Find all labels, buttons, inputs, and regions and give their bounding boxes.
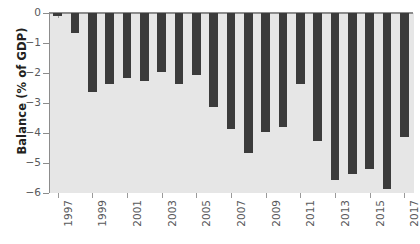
x-tick-label: 2003 bbox=[166, 200, 178, 227]
bar-2015 bbox=[365, 13, 374, 169]
y-tick-label: −1 bbox=[0, 36, 41, 48]
bar-2011 bbox=[296, 13, 305, 84]
y-tick bbox=[43, 73, 49, 74]
bar-2017 bbox=[400, 13, 409, 137]
y-tick bbox=[43, 43, 49, 44]
bar-2001 bbox=[123, 13, 132, 78]
y-tick-label: −6 bbox=[0, 186, 41, 198]
bar-2000 bbox=[105, 13, 114, 84]
x-tick-label: 2015 bbox=[374, 200, 386, 227]
bar-2010 bbox=[279, 13, 288, 127]
x-tick bbox=[335, 193, 336, 198]
bar-2014 bbox=[348, 13, 357, 174]
y-tick-label: −2 bbox=[0, 66, 41, 78]
x-tick-label: 2005 bbox=[200, 200, 212, 227]
bar-2003 bbox=[157, 13, 166, 72]
bar-2013 bbox=[331, 13, 340, 180]
y-tick-label: 0 bbox=[0, 6, 41, 18]
y-axis-title: Balance (% of GDP) bbox=[15, 6, 29, 176]
bar-2008 bbox=[244, 13, 253, 153]
bar-2005 bbox=[192, 13, 201, 75]
bar-2002 bbox=[140, 13, 149, 81]
x-tick bbox=[370, 193, 371, 198]
bar-1998 bbox=[71, 13, 80, 33]
bar-1997 bbox=[53, 13, 62, 16]
x-tick bbox=[404, 193, 405, 198]
y-tick bbox=[43, 13, 49, 14]
x-tick bbox=[58, 193, 59, 198]
x-tick-label: 1997 bbox=[62, 200, 74, 227]
y-tick bbox=[43, 193, 49, 194]
x-tick-label: 2013 bbox=[339, 200, 351, 227]
bar-2016 bbox=[383, 13, 392, 189]
x-tick-label: 2007 bbox=[235, 200, 247, 227]
y-tick-label: −5 bbox=[0, 156, 41, 168]
x-tick bbox=[162, 193, 163, 198]
bar-1999 bbox=[88, 13, 97, 92]
x-tick bbox=[231, 193, 232, 198]
x-tick bbox=[92, 193, 93, 198]
y-tick-label: −3 bbox=[0, 96, 41, 108]
bar-2007 bbox=[227, 13, 236, 129]
y-tick bbox=[43, 163, 49, 164]
bar-2012 bbox=[313, 13, 322, 141]
bar-2004 bbox=[175, 13, 184, 84]
x-tick-label: 2011 bbox=[304, 200, 316, 227]
x-tick bbox=[196, 193, 197, 198]
bar-2009 bbox=[261, 13, 270, 132]
x-tick-label: 2009 bbox=[270, 200, 282, 227]
x-tick bbox=[266, 193, 267, 198]
x-tick-label: 1999 bbox=[96, 200, 108, 227]
x-tick-label: 2017 bbox=[408, 200, 420, 227]
x-tick bbox=[127, 193, 128, 198]
bar-2006 bbox=[209, 13, 218, 107]
x-tick-label: 2001 bbox=[131, 200, 143, 227]
y-tick bbox=[43, 103, 49, 104]
y-tick bbox=[43, 133, 49, 134]
y-tick-label: −4 bbox=[0, 126, 41, 138]
x-tick bbox=[300, 193, 301, 198]
